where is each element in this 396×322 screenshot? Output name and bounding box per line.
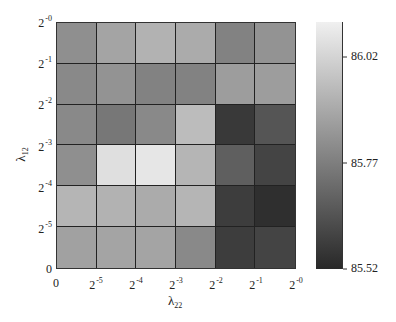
heatmap-cell xyxy=(136,23,176,64)
y-tick-label: 2-2 xyxy=(38,96,52,113)
heatmap-cell xyxy=(136,105,176,146)
x-tick-label: 2-0 xyxy=(289,276,303,293)
x-tick-label: 2-5 xyxy=(89,276,103,293)
heatmap-cell xyxy=(255,145,295,186)
heatmap-cell xyxy=(176,64,216,105)
y-tick-label: 2-5 xyxy=(38,219,52,236)
heatmap-cell xyxy=(57,227,97,268)
heatmap-cell xyxy=(216,145,256,186)
heatmap-cell xyxy=(255,64,295,105)
heatmap-cell xyxy=(136,227,176,268)
heatmap-cell xyxy=(216,23,256,64)
y-axis-label-main: λ xyxy=(13,155,28,161)
heatmap-cell xyxy=(57,145,97,186)
x-tick-label: 0 xyxy=(53,276,59,291)
y-tick-label: 2-4 xyxy=(38,178,52,195)
x-axis-label: λ22 xyxy=(168,293,182,310)
heatmap-cell xyxy=(97,227,137,268)
x-axis-label-sub: 22 xyxy=(174,301,182,310)
y-tick-label: 2-0 xyxy=(38,14,52,31)
heatmap-cell xyxy=(57,23,97,64)
heatmap-cell xyxy=(255,23,295,64)
heatmap-cell xyxy=(176,186,216,227)
colorbar-tick-label: 85.77 xyxy=(343,155,378,170)
y-tick-label: 0 xyxy=(46,262,52,277)
heatmap-cell xyxy=(176,105,216,146)
heatmap-cell xyxy=(216,186,256,227)
heatmap-cell xyxy=(216,64,256,105)
colorbar-tick-label: 85.52 xyxy=(343,261,378,276)
heatmap-cell xyxy=(176,227,216,268)
heatmap-cell xyxy=(255,227,295,268)
heatmap-cell xyxy=(216,227,256,268)
y-axis-label: λ12 xyxy=(13,147,30,161)
heatmap-cell xyxy=(136,186,176,227)
heatmap-cell xyxy=(57,64,97,105)
heatmap-cell xyxy=(97,105,137,146)
x-tick-label: 2-3 xyxy=(169,276,183,293)
y-tick-label: 2-1 xyxy=(38,55,52,72)
heatmap-cell xyxy=(176,23,216,64)
heatmap-cell xyxy=(136,145,176,186)
heatmap-cell xyxy=(136,64,176,105)
colorbar-tick-label: 86.02 xyxy=(343,49,378,64)
heatmap-cell xyxy=(97,64,137,105)
heatmap-cell xyxy=(255,105,295,146)
heatmap-cell xyxy=(255,186,295,227)
x-tick-label: 2-2 xyxy=(209,276,223,293)
heatmap-cell xyxy=(216,105,256,146)
heatmap-cell xyxy=(176,145,216,186)
x-tick-label: 2-4 xyxy=(129,276,143,293)
colorbar xyxy=(316,22,343,269)
heatmap-cell xyxy=(97,186,137,227)
y-tick-label: 2-3 xyxy=(38,137,52,154)
y-axis-label-sub: 12 xyxy=(21,147,30,155)
x-tick-label: 2-1 xyxy=(249,276,263,293)
heatmap-cell xyxy=(57,105,97,146)
heatmap-cell xyxy=(97,23,137,64)
heatmap-cell xyxy=(97,145,137,186)
heatmap-cell xyxy=(57,186,97,227)
heatmap-grid xyxy=(56,22,296,269)
